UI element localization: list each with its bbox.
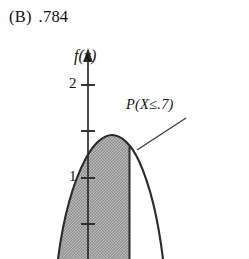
answer-choice-line: (B).784 (9, 7, 68, 27)
y-axis-label: f(x) (74, 47, 96, 65)
answer-choice-value: .784 (39, 7, 69, 26)
y-tick-label-1: 1 (69, 168, 77, 185)
callout-line-icon (137, 118, 186, 150)
annotation-suffix: .7) (157, 96, 173, 112)
y-tick-label-2: 2 (69, 75, 77, 92)
probability-annotation: P(X≤.7) (126, 96, 174, 113)
shaded-region (58, 135, 129, 259)
annotation-prefix: P(X (126, 96, 149, 112)
figure-panel: (B).784 (0, 0, 249, 259)
answer-choice-letter: (B) (9, 7, 32, 26)
density-plot: f(x) 2 1 P(X≤.7) (0, 38, 249, 259)
plot-canvas (0, 38, 249, 259)
